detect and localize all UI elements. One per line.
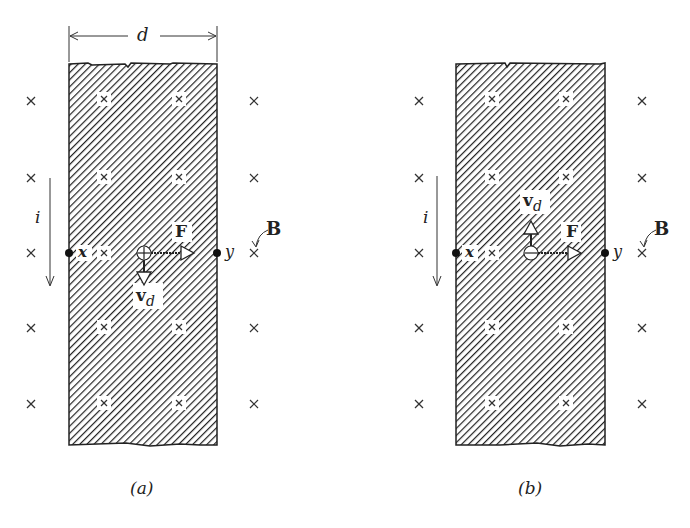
hall-effect-diagram: [0, 0, 690, 528]
positive-carrier-icon: [137, 246, 151, 260]
point-y-label-a: y: [225, 244, 234, 260]
point-x-b: [452, 249, 460, 257]
point-x-label-b: x: [465, 245, 474, 260]
current-label-b: i: [423, 209, 428, 226]
point-y-b: [601, 249, 609, 257]
velocity-label-b: vd: [523, 192, 542, 209]
current-label-a: i: [35, 209, 40, 226]
field-marker-icon: [27, 97, 35, 105]
field-label-a: B: [266, 220, 281, 238]
force-label-b: F: [566, 223, 578, 240]
current-arrow-a: [46, 178, 54, 286]
force-label-a: F: [175, 223, 187, 240]
point-y-label-b: y: [613, 244, 622, 260]
width-label: d: [137, 26, 149, 44]
negative-carrier-icon: [524, 246, 538, 260]
point-x-label-a: x: [78, 245, 87, 260]
caption-b: (b): [518, 480, 542, 497]
caption-a: (a): [130, 480, 153, 497]
panel-a: [46, 26, 268, 446]
point-y-a: [213, 249, 221, 257]
field-label-b: B: [654, 220, 669, 238]
velocity-label-a: vd: [136, 287, 155, 304]
current-arrow-b: [433, 176, 441, 286]
point-x-a: [65, 249, 73, 257]
